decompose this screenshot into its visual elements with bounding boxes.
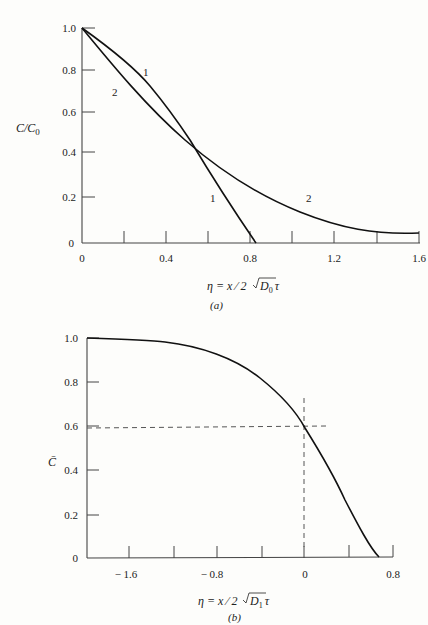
chart-b: 1.0 0.8 0.6 0.4 0.2 0 − 1.6 − 0.8 0 0.8 … xyxy=(48,332,400,624)
chart-a-caption: (a) xyxy=(210,299,223,312)
chart-a-xtick-0.8: 0.8 xyxy=(243,252,257,264)
svg-text:η = x ⁄ 2: η = x ⁄ 2 xyxy=(207,279,246,293)
chart-b-ytick-0.2: 0.2 xyxy=(64,509,78,521)
chart-a-y-ticks xyxy=(82,28,95,197)
chart-a-label-curve2-top: 2 xyxy=(112,86,118,98)
chart-a-ytick-0.6: 0.6 xyxy=(62,106,76,118)
chart-b-xtick-0.8: 0.8 xyxy=(386,568,400,580)
chart-b-y-tick-labels: 1.0 0.8 0.6 0.4 0.2 0 xyxy=(64,332,78,564)
chart-b-y-ticks xyxy=(87,338,99,515)
chart-b-x-ticks xyxy=(129,545,393,558)
chart-b-xtick-neg1.6: − 1.6 xyxy=(115,568,138,580)
chart-b-x-axis xyxy=(87,557,393,558)
chart-a-label-curve1-top: 1 xyxy=(143,66,149,78)
chart-b-ytick-0.8: 0.8 xyxy=(64,376,78,388)
chart-a-xtick-1.2: 1.2 xyxy=(327,252,341,264)
svg-text:D1τ: D1τ xyxy=(249,594,270,610)
chart-a-x-ticks xyxy=(124,231,419,243)
chart-a-x-tick-labels: 0 0.4 0.8 1.2 1.6 xyxy=(79,252,426,264)
chart-a-label-curve2-bottom: 2 xyxy=(306,192,312,204)
chart-b-x-tick-labels: − 1.6 − 0.8 0 0.8 xyxy=(115,568,401,580)
chart-a-ytick-0: 0 xyxy=(69,237,75,249)
chart-b-ytick-0.6: 0.6 xyxy=(64,420,78,432)
chart-a-xtick-1.6: 1.6 xyxy=(412,252,426,264)
chart-a-xtick-0: 0 xyxy=(79,252,85,264)
chart-a-ytick-0.4: 0.4 xyxy=(62,146,76,158)
chart-a-y-axis-title: C/C0 xyxy=(16,121,40,137)
chart-a-ytick-0.8: 0.8 xyxy=(62,64,76,76)
chart-a-label-curve1-bottom: 1 xyxy=(210,192,216,204)
svg-text:D0τ: D0τ xyxy=(259,279,280,295)
chart-b-xtick-0: 0 xyxy=(302,568,308,580)
chart-b-ytick-1.0: 1.0 xyxy=(64,332,78,344)
chart-a: 1.0 0.8 0.6 0.4 0.2 0 0 0.4 0.8 1.2 1.6 … xyxy=(16,22,426,312)
figure-canvas: 1.0 0.8 0.6 0.4 0.2 0 0 0.4 0.8 1.2 1.6 … xyxy=(0,0,428,625)
svg-text:η = x ⁄ 2: η = x ⁄ 2 xyxy=(198,594,237,608)
chart-b-caption: (b) xyxy=(228,611,241,624)
chart-b-ytick-0: 0 xyxy=(73,552,79,564)
chart-b-curve xyxy=(87,338,379,557)
chart-a-x-axis-title: η = x ⁄ 2 D0τ xyxy=(207,278,280,295)
chart-a-ytick-1.0: 1.0 xyxy=(62,22,76,34)
chart-a-curve-2 xyxy=(82,28,419,233)
chart-b-x-axis-title: η = x ⁄ 2 D1τ xyxy=(198,593,270,610)
chart-b-ytick-0.4: 0.4 xyxy=(64,464,78,476)
chart-a-ytick-0.2: 0.2 xyxy=(62,191,76,203)
chart-a-y-tick-labels: 1.0 0.8 0.6 0.4 0.2 0 xyxy=(62,22,76,249)
chart-b-xtick-neg0.8: − 0.8 xyxy=(201,568,224,580)
chart-b-y-axis-title: C̄ xyxy=(48,455,57,469)
chart-a-xtick-0.4: 0.4 xyxy=(159,252,173,264)
chart-b-ref-horizontal xyxy=(87,426,327,428)
